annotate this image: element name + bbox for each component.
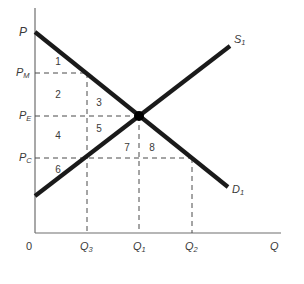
demand-curve (35, 32, 228, 187)
supply-demand-diagram: P PM PE PC 0 Q3 Q1 Q2 Q S1 D1 1 2 3 4 5 … (0, 0, 304, 284)
area-label-6: 6 (55, 165, 61, 175)
area-label-7: 7 (124, 143, 130, 153)
x-tick-q3: Q3 (80, 241, 93, 254)
area-label-3: 3 (96, 98, 102, 108)
x-tick-q2: Q2 (185, 241, 198, 254)
area-label-5: 5 (96, 124, 102, 134)
x-axis-label: Q (270, 241, 279, 252)
y-axis-label: P (19, 26, 27, 38)
x-tick-q1: Q1 (133, 241, 146, 254)
area-label-8: 8 (149, 143, 155, 153)
area-label-4: 4 (55, 131, 61, 141)
area-label-1: 1 (55, 57, 61, 67)
equilibrium-point (134, 111, 144, 121)
y-tick-pc: PC (19, 152, 32, 165)
area-label-2: 2 (55, 90, 61, 100)
y-tick-pm: PM (16, 67, 30, 80)
supply-curve (35, 46, 230, 196)
origin-label: 0 (26, 241, 32, 252)
supply-curve-label: S1 (234, 34, 246, 47)
y-tick-pe: PE (19, 110, 31, 123)
demand-curve-label: D1 (232, 184, 244, 197)
